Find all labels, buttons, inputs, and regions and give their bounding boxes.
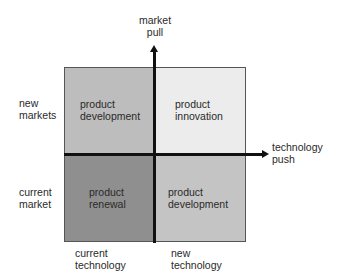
label-line: technology	[75, 259, 126, 271]
quadrant-label-top-left: product development	[80, 98, 140, 122]
label-line: innovation	[175, 110, 223, 122]
label-line: product	[168, 186, 228, 198]
label-line: development	[168, 198, 228, 210]
label-line: current	[19, 186, 52, 198]
label-line: product	[80, 98, 140, 110]
label-line: push	[272, 153, 323, 165]
row-label-current-market: current market	[19, 186, 52, 210]
arrow-up-icon	[150, 45, 158, 52]
horizontal-axis	[64, 153, 264, 156]
arrow-right-icon	[262, 150, 269, 158]
vertical-axis	[153, 50, 156, 243]
label-line: new	[19, 97, 56, 109]
label-line: technology	[272, 141, 323, 153]
label-line: market	[19, 198, 52, 210]
vertical-axis-label: market pull	[130, 14, 180, 38]
quadrant-label-bottom-right: product development	[168, 186, 228, 210]
label-line: current	[75, 247, 126, 259]
label-line: product	[175, 98, 223, 110]
column-label-current-technology: current technology	[75, 247, 126, 271]
horizontal-axis-label: technology push	[272, 141, 323, 165]
label-line: market	[130, 14, 180, 26]
label-line: technology	[171, 259, 222, 271]
quadrant-label-bottom-left: product renewal	[89, 186, 126, 210]
label-line: product	[89, 186, 126, 198]
label-line: development	[80, 110, 140, 122]
label-line: pull	[130, 26, 180, 38]
label-line: markets	[19, 109, 56, 121]
quadrant-label-top-right: product innovation	[175, 98, 223, 122]
row-label-new-markets: new markets	[19, 97, 56, 121]
label-line: renewal	[89, 198, 126, 210]
label-line: new	[171, 247, 222, 259]
column-label-new-technology: new technology	[171, 247, 222, 271]
